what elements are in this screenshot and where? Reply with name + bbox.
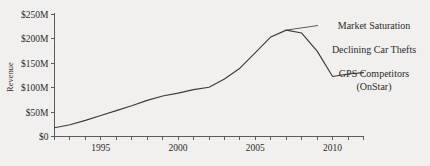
y-tick-label-200: $200M bbox=[21, 34, 49, 44]
annotations-group: Market Saturation Declining Car Thefts G… bbox=[332, 20, 416, 93]
y-axis-title: Revenue bbox=[5, 62, 15, 92]
axes-group bbox=[51, 13, 364, 140]
x-tick-label-2010: 2010 bbox=[323, 143, 342, 153]
leader-line-market-saturation bbox=[286, 26, 318, 31]
annotation-gps-competitors: GPS Competitors bbox=[339, 68, 409, 79]
x-tick-label-2005: 2005 bbox=[246, 143, 265, 153]
y-tick-label-250: $250M bbox=[21, 10, 49, 20]
y-tick-label-50: $50M bbox=[26, 108, 49, 118]
x-axis-tick-labels: 1995 2000 2005 2010 bbox=[91, 143, 342, 153]
x-axis-ticks bbox=[55, 137, 364, 141]
y-tick-label-150: $150M bbox=[21, 59, 49, 69]
annotation-leader-lines bbox=[286, 26, 318, 31]
annotation-declining-car-thefts: Declining Car Thefts bbox=[332, 44, 416, 55]
y-axis-tick-labels: $250M $200M $150M $100M $50M $0 bbox=[21, 10, 49, 142]
annotation-gps-competitors-sub: (OnStar) bbox=[357, 81, 392, 93]
annotation-market-saturation: Market Saturation bbox=[338, 20, 410, 31]
x-tick-label-2000: 2000 bbox=[169, 143, 188, 153]
y-tick-label-100: $100M bbox=[21, 83, 49, 93]
y-axis-ticks bbox=[51, 15, 55, 137]
chart-canvas: $250M $200M $150M $100M $50M $0 1995 200… bbox=[0, 0, 430, 166]
x-tick-label-1995: 1995 bbox=[91, 143, 110, 153]
revenue-series-line bbox=[55, 30, 364, 128]
y-tick-label-0: $0 bbox=[39, 132, 49, 142]
revenue-line-chart: $250M $200M $150M $100M $50M $0 1995 200… bbox=[0, 0, 430, 166]
